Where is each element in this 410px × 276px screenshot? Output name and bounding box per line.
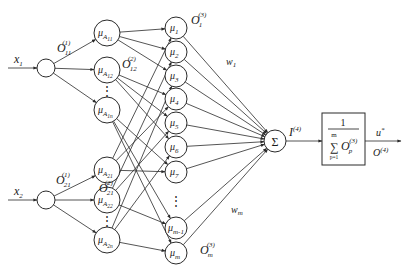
fuzzy-neural-network-diagram: μA11μA12μA1nμA21μA22μA2nμ1μ2μ3μ4μ5μ6μ7μm… — [0, 0, 410, 276]
ellipsis-layer3: ⋮ — [170, 194, 182, 208]
output-label-O4: O(4) — [373, 146, 389, 158]
layer2-output-label-O12: O12(2) — [122, 55, 137, 73]
edge-r5-to-sum — [187, 125, 264, 139]
edge-rm1-to-sum — [184, 148, 266, 220]
input-node-x1 — [37, 59, 55, 77]
layer1-output-label-O21: O21(1) — [56, 171, 71, 189]
edge-A21-to-r1 — [113, 38, 172, 158]
layer3-output-label-Om: Om(3) — [200, 241, 216, 259]
normalizer-lower-limit: p=1 — [330, 154, 339, 160]
edge-r7-to-sum — [187, 144, 265, 168]
edge-A22-to-r5 — [116, 131, 169, 190]
normalizer-numerator: 1 — [341, 117, 346, 128]
ellipsis-layer2-group1: ⋮ — [101, 84, 113, 98]
edge-r6-to-sum — [187, 142, 264, 147]
edge-A11-to-r2 — [120, 37, 166, 50]
edge-A21-to-r4 — [116, 107, 168, 161]
edge-r1-to-sum — [183, 36, 268, 132]
normalizer-sum-symbol: ∑ — [330, 140, 339, 154]
nodes-layer: μA11μA12μA1nμA21μA22μA2nμ1μ2μ3μ4μ5μ6μ7μm… — [37, 17, 286, 264]
edge-x2-to-A2n — [54, 205, 97, 233]
ellipsis-layer2-group2: ⋮ — [101, 214, 113, 228]
edge-r2-to-sum — [184, 59, 267, 133]
edge-A11-to-r1 — [120, 29, 165, 32]
sum-node-label: Σ — [272, 135, 279, 149]
input-label-x1: x1 — [13, 52, 23, 68]
weight-label-w1: w1 — [226, 56, 236, 69]
edge-A12-to-r6 — [116, 80, 169, 139]
edge-A2n-to-r3 — [112, 86, 172, 228]
sum-output-label-I4: I(4) — [288, 125, 302, 139]
input-label-x2: x2 — [13, 184, 23, 200]
layer3-output-label-O1: O1(3) — [191, 11, 207, 29]
edge-rm-to-sum — [183, 149, 267, 245]
output-label-u-star: u* — [376, 126, 385, 138]
edge-x1-to-A12 — [55, 68, 94, 69]
normalizer-upper-limit: m — [331, 131, 337, 139]
edge-A1n-to-r7 — [117, 119, 168, 165]
edge-A2n-to-r6 — [115, 156, 170, 230]
weight-label-wm: wm — [231, 204, 243, 217]
edge-A2n-to-rm — [120, 242, 165, 251]
edge-x1-to-A1n — [53, 73, 96, 103]
layer1-output-label-O11: O11(1) — [57, 39, 71, 57]
input-node-x2 — [37, 191, 55, 209]
